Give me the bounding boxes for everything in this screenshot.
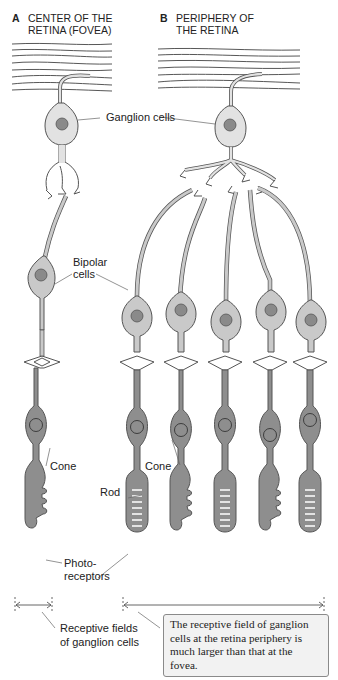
receptive-fields-label-line1: Receptive fields: [60, 622, 138, 635]
periphery-note-box: The receptive field of ganglion cells at…: [163, 614, 329, 677]
ganglion-cells-label: Ganglion cells: [106, 111, 175, 124]
leader-ganglion-a: [78, 118, 100, 120]
cone-label-b: Cone: [145, 460, 171, 473]
rod-1: [126, 370, 148, 532]
cone-a: [25, 368, 47, 528]
receptive-fields-label-line2: of ganglion cells: [60, 636, 139, 649]
cone-b-2: [259, 370, 281, 530]
nerve-fiber-layer-b: [158, 48, 300, 89]
rod-label: Rod: [100, 486, 120, 499]
bipolar-cells-label-line2: cells: [73, 268, 95, 281]
rod-2: [214, 370, 236, 532]
rod-3: [299, 370, 321, 532]
retina-diagram: [0, 0, 338, 680]
cone-b-1: [170, 370, 192, 530]
photoreceptors-label-line1: Photo-: [64, 557, 96, 570]
cone-label-a: Cone: [50, 460, 76, 473]
photoreceptors-label-line2: receptors: [64, 570, 110, 583]
